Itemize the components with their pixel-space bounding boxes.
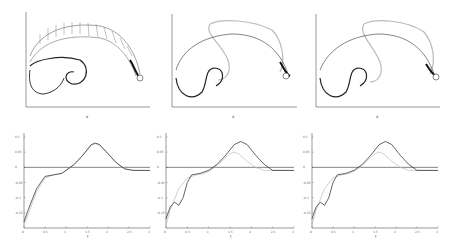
top-right-black-sheet <box>320 34 436 97</box>
bottom-left-line-plot: 00.511.522.53t0.10.050-0.05-0.1-0.15 <box>0 122 152 244</box>
bottom-middle-svg: 00.511.522.53t0.10.050-0.05-0.1-0.15 <box>152 122 302 244</box>
x-tick-label: 0 <box>22 230 24 234</box>
y-tick-label: -0.05 <box>15 181 23 185</box>
x-tick-label: 2 <box>106 230 108 234</box>
y-tick-label: 0 <box>15 165 17 169</box>
y-tick-label: 0.1 <box>303 135 308 139</box>
x-axis-label: t <box>375 234 377 239</box>
y-tick-label: -0.05 <box>303 181 311 185</box>
top-right-gray-sheet <box>363 21 434 82</box>
series-gray <box>312 152 438 225</box>
y-tick-label: -0.05 <box>157 181 165 185</box>
x-axis-label: t <box>230 234 232 239</box>
x-axis-label: t <box>87 234 89 239</box>
top-middle-svg: x <box>152 0 302 120</box>
top-left-xlabel: x <box>86 114 89 119</box>
x-tick-label: 2.5 <box>127 230 132 234</box>
top-middle-black-sheet <box>176 34 290 97</box>
top-left-arrows <box>40 22 132 56</box>
bottom-middle-line-plot: 00.511.522.53t0.10.050-0.05-0.1-0.15 <box>152 122 302 244</box>
y-tick-label: -0.1 <box>157 196 163 200</box>
top-right-svg: x <box>302 0 454 120</box>
x-tick-label: 0 <box>164 230 166 234</box>
body-circle-icon <box>283 73 289 79</box>
y-tick-label: -0.1 <box>303 196 309 200</box>
top-middle-xlabel: x <box>232 114 235 119</box>
y-tick-label: 0.1 <box>15 135 20 139</box>
series-black <box>24 143 150 222</box>
x-tick-label: 3 <box>436 230 438 234</box>
bottom-left-svg: 00.511.522.53t0.10.050-0.05-0.1-0.15 <box>0 122 152 244</box>
x-tick-label: 0.5 <box>43 230 48 234</box>
bottom-right-line-plot: 00.511.522.53t0.10.050-0.05-0.1-0.15 <box>302 122 454 244</box>
y-tick-label: 0 <box>303 165 305 169</box>
y-tick-label: 0.1 <box>157 135 162 139</box>
top-right-xlabel: x <box>376 114 379 119</box>
x-tick-label: 0 <box>310 230 312 234</box>
top-left-arrow-field <box>30 25 140 94</box>
x-tick-label: 3 <box>148 230 150 234</box>
y-tick-label: -0.1 <box>15 196 21 200</box>
top-left-vortex-plot: x <box>0 0 152 120</box>
series-gray <box>166 152 294 225</box>
x-tick-label: 3 <box>292 230 294 234</box>
series-gray <box>24 144 150 225</box>
y-tick-label: -0.15 <box>157 211 165 215</box>
top-right-vortex-plot: x <box>302 0 454 120</box>
x-tick-label: 1 <box>207 230 209 234</box>
x-tick-label: 2 <box>394 230 396 234</box>
y-tick-label: 0.05 <box>157 150 164 154</box>
x-tick-label: 2.5 <box>271 230 276 234</box>
y-tick-label: 0 <box>157 165 159 169</box>
top-middle-gray-sheet <box>209 21 283 80</box>
x-tick-label: 0.5 <box>331 230 336 234</box>
bottom-right-svg: 00.511.522.53t0.10.050-0.05-0.1-0.15 <box>302 122 454 244</box>
x-tick-label: 2 <box>249 230 251 234</box>
x-tick-label: 1 <box>64 230 66 234</box>
x-tick-label: 0.5 <box>185 230 190 234</box>
x-tick-label: 2.5 <box>415 230 420 234</box>
top-middle-vortex-plot: x <box>152 0 302 120</box>
body-circle-icon <box>137 75 143 81</box>
y-tick-label: -0.15 <box>303 211 311 215</box>
x-tick-label: 1 <box>352 230 354 234</box>
y-tick-label: -0.15 <box>15 211 23 215</box>
y-tick-label: 0.05 <box>303 150 310 154</box>
top-left-svg: x <box>0 0 152 120</box>
body-circle-icon <box>433 74 439 80</box>
y-tick-label: 0.05 <box>15 150 22 154</box>
